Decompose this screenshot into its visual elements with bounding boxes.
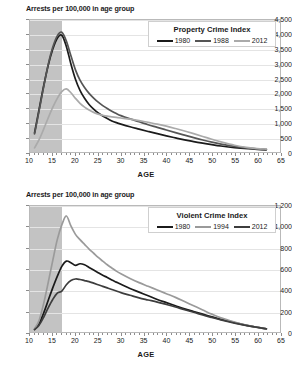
- x-axis-minor-tick: [180, 333, 181, 335]
- y-axis-tick-mark: [26, 79, 29, 80]
- x-axis-minor-tick: [240, 333, 241, 335]
- x-axis-minor-tick: [162, 333, 163, 335]
- x-axis-tick-label: 15: [48, 157, 56, 164]
- x-axis-minor-tick: [43, 153, 44, 155]
- x-axis-tick-label: 55: [231, 157, 239, 164]
- x-axis-tick-label: 50: [208, 157, 216, 164]
- x-axis-minor-tick: [47, 333, 48, 335]
- x-axis-tick-label: 25: [94, 337, 102, 344]
- legend-label: 2012: [252, 223, 268, 230]
- x-axis-tick-label: 10: [25, 337, 33, 344]
- x-axis-minor-tick: [89, 153, 90, 155]
- x-axis-minor-tick: [263, 333, 264, 335]
- x-axis-minor-tick: [212, 333, 213, 335]
- legend-line-swatch-icon: [195, 40, 211, 42]
- x-axis-minor-tick: [157, 333, 158, 335]
- legend-line-swatch-icon: [157, 40, 173, 42]
- x-axis-minor-tick: [38, 153, 39, 155]
- x-axis-minor-tick: [194, 153, 195, 155]
- x-axis-minor-tick: [217, 153, 218, 155]
- x-axis-minor-tick: [226, 153, 227, 155]
- x-axis-minor-tick: [221, 333, 222, 335]
- x-axis-minor-tick: [208, 153, 209, 155]
- x-axis-minor-tick: [29, 153, 30, 155]
- x-axis-minor-tick: [276, 333, 277, 335]
- legend-line-swatch-icon: [195, 226, 211, 228]
- x-axis-minor-tick: [208, 333, 209, 335]
- y-axis-tick-label: 1,500: [268, 105, 292, 112]
- x-axis-title-property: AGE: [0, 170, 292, 179]
- x-axis-minor-tick: [93, 153, 94, 155]
- y-axis-tick-mark: [26, 34, 29, 35]
- x-axis-minor-tick: [199, 153, 200, 155]
- x-axis-minor-tick: [144, 153, 145, 155]
- y-axis-tick-mark: [26, 290, 29, 291]
- x-axis-minor-tick: [185, 153, 186, 155]
- x-axis-tick-label: 20: [71, 157, 79, 164]
- x-axis-tick-label: 65: [277, 157, 285, 164]
- series-line-1980: [35, 261, 267, 329]
- legend-label: 2012: [252, 37, 268, 44]
- x-axis-minor-tick: [267, 153, 268, 155]
- y-axis-tick-mark: [26, 49, 29, 50]
- x-axis-minor-tick: [34, 153, 35, 155]
- x-axis-minor-tick: [66, 333, 67, 335]
- x-axis-minor-tick: [153, 153, 154, 155]
- x-axis-minor-tick: [226, 333, 227, 335]
- x-axis-minor-tick: [116, 333, 117, 335]
- x-axis-minor-tick: [254, 333, 255, 335]
- x-axis-minor-tick: [111, 153, 112, 155]
- legend-line-swatch-icon: [157, 226, 173, 228]
- y-axis-tick-mark: [26, 93, 29, 94]
- legend-label: 1980: [175, 223, 191, 230]
- y-axis-tick-mark: [26, 269, 29, 270]
- x-axis-minor-tick: [66, 153, 67, 155]
- x-axis-minor-tick: [180, 153, 181, 155]
- x-axis-minor-tick: [34, 333, 35, 335]
- x-axis-minor-tick: [47, 153, 48, 155]
- x-axis-minor-tick: [134, 153, 135, 155]
- x-axis-minor-tick: [111, 333, 112, 335]
- y-axis-tick-mark: [26, 205, 29, 206]
- x-axis-minor-tick: [70, 153, 71, 155]
- x-axis-minor-tick: [79, 333, 80, 335]
- x-axis-minor-tick: [194, 333, 195, 335]
- x-axis-tick-label: 55: [231, 337, 239, 344]
- y-axis-tick-mark: [26, 248, 29, 249]
- legend-item-2012[interactable]: 2012: [234, 37, 268, 44]
- x-axis-minor-tick: [263, 153, 264, 155]
- x-axis-minor-tick: [235, 333, 236, 335]
- legend-property: Property Crime Index 198019882012: [148, 21, 276, 47]
- legend-item-1980[interactable]: 1980: [157, 37, 191, 44]
- x-axis-minor-tick: [84, 333, 85, 335]
- y-axis-tick-label: 1,000: [268, 120, 292, 127]
- x-axis-minor-tick: [189, 333, 190, 335]
- x-axis-minor-tick: [189, 153, 190, 155]
- x-axis-minor-tick: [171, 153, 172, 155]
- x-axis-title-violent: AGE: [0, 350, 292, 359]
- y-axis-tick-label: 3,000: [268, 60, 292, 67]
- y-axis-tick-label: 200: [268, 308, 292, 315]
- x-axis-minor-tick: [258, 333, 259, 335]
- x-axis-minor-tick: [217, 333, 218, 335]
- x-axis-minor-tick: [130, 153, 131, 155]
- x-axis-tick-label: 30: [117, 337, 125, 344]
- x-axis-minor-tick: [56, 333, 57, 335]
- y-axis-title-violent: Arrests per 100,000 in age group: [26, 190, 134, 199]
- y-axis-tick-mark: [26, 138, 29, 139]
- x-axis-minor-tick: [203, 153, 204, 155]
- x-axis-tick-label: 65: [277, 337, 285, 344]
- x-axis-minor-tick: [43, 333, 44, 335]
- legend-item-1980[interactable]: 1980: [157, 223, 191, 230]
- x-axis-minor-tick: [221, 153, 222, 155]
- x-axis-minor-tick: [148, 333, 149, 335]
- x-axis-minor-tick: [203, 333, 204, 335]
- x-axis-minor-tick: [125, 333, 126, 335]
- legend-item-1994[interactable]: 1994: [195, 223, 229, 230]
- y-axis-tick-label: 800: [268, 244, 292, 251]
- legend-item-1988[interactable]: 1988: [195, 37, 229, 44]
- legend-item-2012[interactable]: 2012: [234, 223, 268, 230]
- x-axis-tick-label: 25: [94, 157, 102, 164]
- x-axis-minor-tick: [267, 333, 268, 335]
- y-axis-tick-label: 2,500: [268, 75, 292, 82]
